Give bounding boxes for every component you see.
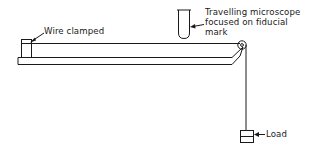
wire-clamped-arrow	[30, 33, 44, 43]
load-arrow	[254, 132, 265, 137]
bench	[18, 44, 243, 65]
travelling-microscope	[177, 10, 191, 39]
microscope-arrow	[190, 24, 204, 29]
load-label: Load	[266, 129, 287, 139]
microscope-label-line3: mark	[205, 27, 228, 37]
wire-clamped-label: Wire clamped	[44, 26, 104, 36]
load	[241, 131, 254, 143]
microscope-label-line2: focused on fiducial	[205, 17, 288, 27]
microscope-label-line1: Travelling microscope	[205, 7, 300, 17]
clamp	[22, 40, 32, 58]
